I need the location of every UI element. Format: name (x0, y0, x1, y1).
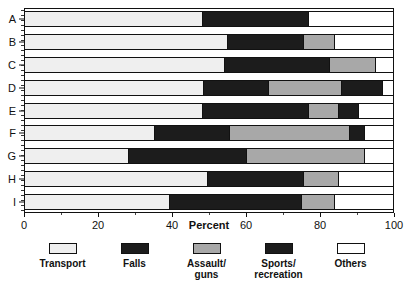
legend-item: Falls (106, 243, 164, 269)
legend-item: Others (322, 243, 380, 269)
bar-segment (202, 104, 309, 118)
x-minor-tick (135, 213, 136, 215)
plot-area (24, 8, 394, 213)
x-tick-label: 100 (385, 219, 403, 231)
bar-segment (25, 126, 154, 140)
bar-row (24, 80, 394, 96)
category-label-c: C (8, 59, 16, 70)
bar-segment (308, 104, 337, 118)
bar-row (24, 125, 394, 141)
bar-row (24, 57, 394, 73)
bar-segment (301, 195, 334, 209)
axis-title-percent: Percent (189, 219, 229, 231)
bar-segment (169, 195, 301, 209)
legend-item: Transport (34, 243, 92, 269)
bar-segment (202, 12, 309, 26)
bar-segment (25, 172, 207, 186)
category-label-i: I (13, 196, 16, 207)
bar-segment (338, 104, 358, 118)
x-tick-label: 20 (92, 219, 104, 231)
x-minor-tick (61, 213, 62, 215)
bar-segment (382, 81, 393, 95)
bar-segment (224, 58, 329, 72)
x-minor-tick (283, 213, 284, 215)
bar-segment (246, 149, 364, 163)
bar-segment (25, 149, 128, 163)
legend-label: Assault/ guns (187, 258, 226, 280)
bar-row (24, 11, 394, 27)
bar-row (24, 171, 394, 187)
category-label-h: H (8, 173, 16, 184)
x-tick-label: 0 (21, 219, 27, 231)
bar-segment (25, 104, 202, 118)
legend-swatch (337, 243, 365, 254)
bar-segment (25, 81, 203, 95)
bar-row (24, 34, 394, 50)
bar-segment (358, 104, 393, 118)
x-tick (394, 213, 395, 217)
value-axis: Percent 020406080100 (24, 213, 394, 239)
x-tick (246, 213, 247, 217)
bar-segment (207, 172, 303, 186)
bar-segment (25, 35, 227, 49)
bar-segment (364, 126, 393, 140)
legend-item: Assault/ guns (178, 243, 236, 280)
bar-segment (303, 172, 338, 186)
legend-swatch (265, 243, 293, 254)
legend-swatch (121, 243, 149, 254)
legend: TransportFallsAssault/ gunsSports/ recre… (0, 243, 413, 280)
bar-segment (203, 81, 267, 95)
category-label-f: F (9, 128, 16, 139)
bar-segment (338, 172, 393, 186)
x-tick (172, 213, 173, 217)
category-axis: ABCDEFGHI (0, 8, 24, 213)
chart-container: ABCDEFGHI Percent 020406080100 Transport… (0, 0, 413, 295)
bar-segment (128, 149, 246, 163)
category-label-b: B (9, 37, 16, 48)
x-tick-label: 80 (314, 219, 326, 231)
bar-segment (329, 58, 375, 72)
category-label-e: E (9, 105, 16, 116)
legend-item: Sports/ recreation (250, 243, 308, 280)
legend-label: Others (334, 258, 366, 269)
category-label-d: D (8, 82, 16, 93)
bar-segment (268, 81, 342, 95)
bar-segment (227, 35, 302, 49)
bar-segment (25, 58, 224, 72)
legend-label: Sports/ recreation (254, 258, 302, 280)
legend-swatch (49, 243, 77, 254)
bar-segment (349, 126, 364, 140)
bar-segment (341, 81, 381, 95)
bar-segment (25, 12, 202, 26)
legend-label: Falls (123, 258, 146, 269)
bar-segment (364, 149, 393, 163)
x-tick (320, 213, 321, 217)
legend-label: Transport (39, 258, 85, 269)
category-label-g: G (7, 151, 16, 162)
bar-segment (25, 195, 169, 209)
x-tick (98, 213, 99, 217)
legend-swatch (193, 243, 221, 254)
x-minor-tick (209, 213, 210, 215)
bar-segment (334, 35, 393, 49)
bar-row (24, 103, 394, 119)
x-tick (24, 213, 25, 217)
bar-row (24, 148, 394, 164)
x-minor-tick (357, 213, 358, 215)
bar-row (24, 194, 394, 210)
bar-segment (154, 126, 229, 140)
x-tick-label: 60 (240, 219, 252, 231)
category-label-a: A (9, 14, 16, 25)
bar-segment (229, 126, 349, 140)
bar-segment (303, 35, 334, 49)
bar-segment (308, 12, 393, 26)
bar-segment (375, 58, 393, 72)
x-tick-label: 40 (166, 219, 178, 231)
bar-segment (334, 195, 393, 209)
